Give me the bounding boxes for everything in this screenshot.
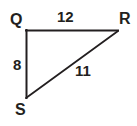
side-length-label-qr: 12 (57, 9, 74, 24)
triangle-diagram: Q R S 12 8 11 (0, 0, 137, 126)
side-sr-line (26, 31, 118, 98)
vertex-label-r: R (119, 11, 131, 27)
vertex-label-s: S (15, 102, 26, 118)
vertex-label-q: Q (10, 12, 22, 28)
side-length-label-qs: 8 (13, 57, 21, 72)
side-length-label-sr: 11 (75, 63, 91, 78)
